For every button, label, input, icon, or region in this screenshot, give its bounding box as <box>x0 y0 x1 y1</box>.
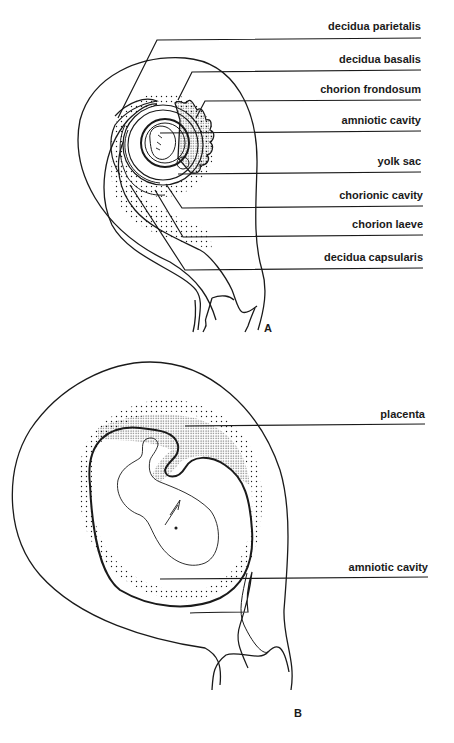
label-chorion-laeve: chorion laeve <box>352 218 423 230</box>
label-yolk-sac: yolk sac <box>378 155 421 167</box>
panel-letter-b: B <box>294 707 302 719</box>
label-placenta: placenta <box>380 408 425 420</box>
label-decidua-parietalis: decidua parietalis <box>328 20 421 32</box>
label-chorion-frondosum: chorion frondosum <box>320 83 421 95</box>
panel-a-drawing <box>78 58 265 332</box>
panel-letter-a: A <box>264 322 272 334</box>
label-amniotic-cavity-a: amniotic cavity <box>342 114 421 126</box>
label-decidua-capsularis: decidua capsularis <box>324 251 423 263</box>
vagina-wall-left-a <box>203 298 212 332</box>
leader-yolk-sac <box>178 172 421 174</box>
label-chorionic-cavity: chorionic cavity <box>339 189 423 201</box>
label-amniotic-cavity-b: amniotic cavity <box>349 561 428 573</box>
diagram-canvas <box>0 0 454 743</box>
panel-b-drawing <box>12 362 292 690</box>
label-decidua-basalis: decidua basalis <box>339 53 421 65</box>
uterus-inner-wall-b <box>212 647 289 690</box>
